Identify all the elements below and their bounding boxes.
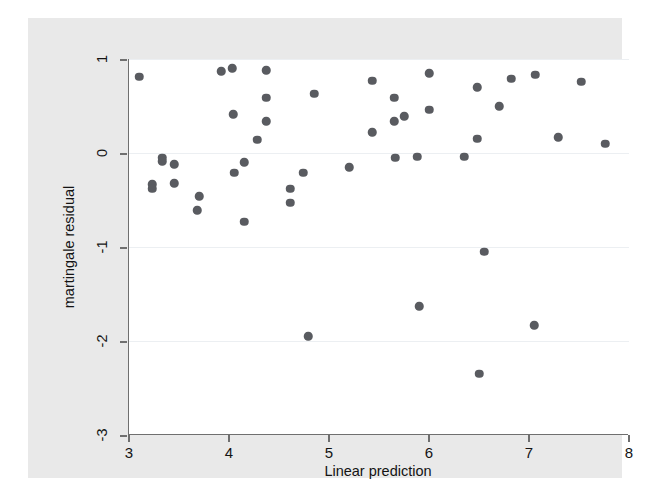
scatter-point: [413, 153, 422, 162]
x-axis-tick: [528, 435, 530, 442]
scatter-point: [286, 199, 295, 208]
y-axis-tick: [120, 341, 127, 343]
scatter-point: [460, 153, 469, 162]
scatter-point: [262, 66, 271, 75]
y-axis-tick: [120, 247, 127, 249]
scatter-point: [135, 73, 144, 82]
scatter-point: [425, 106, 434, 115]
scatter-point: [195, 192, 204, 201]
scatter-point: [217, 67, 226, 76]
scatter-point: [229, 110, 238, 119]
gridline: [129, 153, 629, 154]
x-axis-title: Linear prediction: [128, 463, 628, 479]
y-axis-tick: [120, 153, 127, 155]
x-axis-tick: [628, 435, 630, 442]
scatter-point: [253, 136, 262, 145]
plot-panel: 10-1-2-3 345678: [128, 59, 628, 435]
scatter-point: [531, 71, 540, 80]
scatter-point: [390, 93, 399, 102]
scatter-point: [391, 153, 400, 162]
graph-region: 10-1-2-3 345678 martingale residual Line…: [28, 18, 622, 478]
x-axis-tick: [228, 435, 230, 442]
x-axis-tick: [428, 435, 430, 442]
scatter-point: [415, 302, 424, 311]
y-axis-tick-label: -1: [89, 239, 115, 255]
y-axis-tick-label: 0: [89, 145, 115, 161]
x-axis-tick-label: 4: [225, 444, 233, 461]
scatter-point: [507, 74, 516, 83]
scatter-point: [230, 168, 239, 177]
gridline: [129, 247, 629, 248]
scatter-point: [158, 157, 167, 166]
scatter-point: [286, 184, 295, 193]
x-axis-tick-label: 8: [625, 444, 633, 461]
scatter-point: [310, 90, 319, 99]
x-axis-tick: [328, 435, 330, 442]
scatter-point: [473, 83, 482, 92]
scatter-point: [400, 112, 409, 121]
figure: 10-1-2-3 345678 martingale residual Line…: [0, 0, 647, 501]
y-axis-tick: [120, 435, 127, 437]
scatter-point: [170, 179, 179, 188]
y-axis-tick-label: -2: [89, 333, 115, 349]
x-axis-title-text: Linear prediction: [324, 463, 431, 479]
scatter-point: [390, 117, 399, 126]
x-axis-tick-label: 5: [325, 444, 333, 461]
scatter-point: [368, 128, 377, 137]
x-axis-tick: [128, 435, 130, 442]
scatter-point: [170, 160, 179, 169]
x-axis-tick-label: 7: [525, 444, 533, 461]
scatter-point: [554, 133, 563, 142]
scatter-point: [262, 93, 271, 102]
scatter-point: [495, 102, 504, 111]
x-axis-tick-label: 6: [425, 444, 433, 461]
y-axis-title: martingale residual: [58, 59, 80, 435]
scatter-point: [240, 158, 249, 167]
gridline: [129, 341, 629, 342]
scatter-point: [299, 168, 308, 177]
scatter-point: [368, 76, 377, 85]
scatter-point: [345, 163, 354, 172]
x-axis-tick-label: 3: [125, 444, 133, 461]
scatter-point: [425, 69, 434, 78]
y-axis-tick: [120, 59, 127, 61]
scatter-point: [240, 217, 249, 226]
scatter-point: [193, 206, 202, 215]
scatter-point: [148, 184, 157, 193]
scatter-point: [530, 321, 539, 330]
scatter-point: [262, 117, 271, 126]
scatter-point: [473, 135, 482, 144]
scatter-point: [228, 64, 237, 73]
gridline: [129, 59, 629, 60]
scatter-point: [480, 247, 489, 256]
scatter-point: [304, 332, 313, 341]
scatter-point: [577, 77, 586, 86]
y-axis-tick-label: -3: [89, 427, 115, 443]
scatter-point: [601, 139, 610, 148]
y-axis-title-text: martingale residual: [61, 186, 77, 309]
y-axis-tick-label: 1: [89, 51, 115, 67]
scatter-point: [475, 370, 484, 379]
